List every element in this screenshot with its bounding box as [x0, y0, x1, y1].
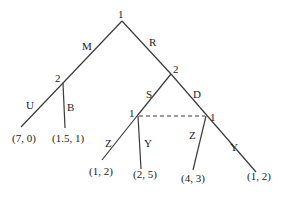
payoff-leaf-6: (1, 2)	[247, 170, 271, 183]
action-label-M: M	[82, 40, 92, 52]
edge-Z-right	[193, 116, 206, 170]
payoff-leaf-5: (4, 3)	[181, 172, 205, 185]
player-label-1-left: 1	[129, 107, 135, 119]
edge-R	[122, 21, 171, 74]
player-label-root: 1	[118, 8, 124, 20]
action-label-D: D	[193, 88, 201, 100]
payoff-leaf-1: (7, 0)	[12, 132, 36, 145]
player-label-1-right: 1	[210, 111, 216, 123]
action-label-U: U	[26, 99, 34, 111]
payoff-leaf-2: (1.5, 1)	[52, 132, 84, 145]
payoff-leaf-4: (2, 5)	[133, 168, 157, 181]
action-label-S: S	[146, 88, 152, 100]
player-label-2-right: 2	[173, 63, 179, 75]
player-label-2-left: 2	[55, 72, 61, 84]
edge-M	[63, 21, 122, 83]
edge-Y-left	[138, 116, 141, 169]
action-label-Z-left: Z	[105, 137, 112, 149]
action-label-B: B	[67, 101, 74, 113]
action-label-R: R	[149, 36, 157, 48]
payoff-leaf-3: (1, 2)	[89, 165, 113, 178]
edge-B	[63, 83, 65, 128]
game-tree: 1 2 2 1 1 M R U B S D Z Y Z Y (7, 0) (1.…	[0, 0, 282, 197]
action-label-Z-right: Z	[189, 129, 196, 141]
edge-D	[171, 74, 256, 172]
action-label-Y-right: Y	[230, 141, 238, 153]
action-label-Y-left: Y	[144, 137, 152, 149]
edge-S	[137, 74, 171, 116]
